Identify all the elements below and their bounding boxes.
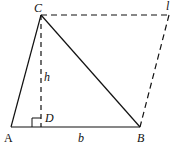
label-h: h [44,70,50,84]
segment-ac [11,15,41,127]
label-a: A [4,131,13,145]
segment-cb [41,15,140,127]
label-d: D [44,111,54,125]
right-angle-icon [32,118,41,127]
segment-eb-dashed [140,15,169,127]
label-c: C [34,1,43,15]
label-e: l [166,0,170,13]
label-b-base: b [78,131,84,145]
parallelogram-diagram: C l h D A b B [0,0,172,152]
label-b-point: B [137,131,145,145]
